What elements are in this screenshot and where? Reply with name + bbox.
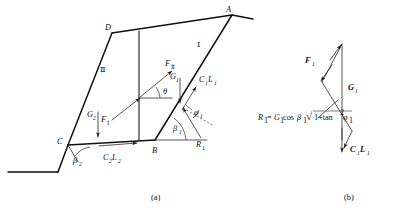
svg-text:1: 1 xyxy=(179,129,182,135)
force-label-F1: F Ⅰ xyxy=(100,115,109,126)
svg-text:β: β xyxy=(296,113,302,122)
block-label-II: Ⅱ xyxy=(100,65,106,74)
svg-text:F: F xyxy=(164,59,171,68)
svg-text:1: 1 xyxy=(200,113,203,119)
polygon-label-F1: F 1 xyxy=(304,56,315,67)
svg-text:1: 1 xyxy=(349,116,353,125)
svg-text:R: R xyxy=(195,140,201,149)
svg-text:1: 1 xyxy=(367,150,370,156)
svg-text:C: C xyxy=(350,145,356,154)
equation-R1: R 1 = G 1 cos β 1 √ 1+tan 2 φ 1 xyxy=(257,108,353,125)
svg-text:1: 1 xyxy=(176,77,179,83)
svg-text:1: 1 xyxy=(355,88,358,94)
svg-text:F: F xyxy=(304,56,311,65)
svg-text:√: √ xyxy=(306,110,313,122)
block-label-I: Ⅰ xyxy=(197,40,200,49)
vertex-label-A: A xyxy=(225,5,232,14)
force-label-G2: G 2 xyxy=(87,110,96,121)
figure-labels: A D B C Ⅰ Ⅱ θ β 1 β 2 φ 1 F Ⅱ F xyxy=(0,0,406,219)
figure-root: A D B C Ⅰ Ⅱ θ β 1 β 2 φ 1 F Ⅱ F xyxy=(0,0,406,219)
force-label-F2: F Ⅱ xyxy=(164,59,175,70)
svg-text:L: L xyxy=(359,145,365,154)
svg-text:2: 2 xyxy=(79,161,82,167)
svg-text:1: 1 xyxy=(312,61,315,67)
svg-text:L: L xyxy=(207,75,213,84)
svg-text:β: β xyxy=(172,124,178,133)
angle-label-theta: θ xyxy=(163,87,167,96)
svg-text:cos: cos xyxy=(283,113,294,122)
svg-text:=: = xyxy=(267,113,272,122)
polygon-label-C1L1: C 1 L 1 xyxy=(350,145,370,156)
svg-text:2: 2 xyxy=(118,158,121,164)
force-label-G1: G 1 xyxy=(170,72,179,83)
svg-text:Ⅱ: Ⅱ xyxy=(171,64,175,70)
force-label-C2L2: C 2 L 2 xyxy=(103,153,121,164)
caption-a: (a) xyxy=(151,193,161,202)
caption-b: (b) xyxy=(344,193,354,202)
vertex-label-C: C xyxy=(57,137,63,146)
svg-text:1: 1 xyxy=(214,80,217,86)
svg-text:L: L xyxy=(111,153,117,162)
angle-label-beta1: β 1 xyxy=(172,124,182,135)
svg-text:φ: φ xyxy=(194,108,199,117)
angle-label-phi1: φ 1 xyxy=(194,108,203,119)
svg-text:F: F xyxy=(100,115,107,124)
polygon-label-G1: G 1 xyxy=(348,83,358,94)
vertex-label-D: D xyxy=(104,23,111,32)
svg-text:Ⅰ: Ⅰ xyxy=(107,120,109,126)
svg-text:1+tan: 1+tan xyxy=(314,113,333,122)
svg-text:2: 2 xyxy=(93,115,96,121)
svg-text:β: β xyxy=(72,156,78,165)
vertex-label-B: B xyxy=(152,146,157,155)
svg-text:1: 1 xyxy=(202,145,205,151)
svg-text:G: G xyxy=(348,83,354,92)
force-label-C1L1: C 1 L 1 xyxy=(199,75,217,86)
force-label-R1: R 1 xyxy=(195,140,205,151)
svg-text:R: R xyxy=(257,113,263,122)
angle-label-beta2: β 2 xyxy=(72,156,82,167)
svg-text:φ: φ xyxy=(343,113,348,122)
